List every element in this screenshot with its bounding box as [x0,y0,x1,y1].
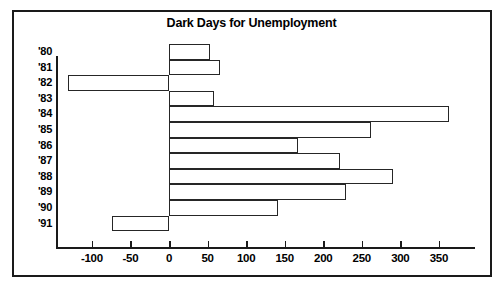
chart-title: Dark Days for Unemployment [0,16,503,30]
y-axis-tick-label: '91 [22,217,52,229]
y-axis-tick-label: '80 [22,45,52,57]
y-axis-tick-label: '85 [22,123,52,135]
x-axis-line [56,247,475,249]
bar [169,106,449,122]
bar-chart: Dark Days for Unemployment '80'81'82'83'… [0,0,503,286]
x-axis-tick [285,241,287,249]
y-axis-tick-label: '88 [22,170,52,182]
bar [169,138,298,154]
x-axis-tick [400,241,402,249]
y-axis-tick-label: '84 [22,107,52,119]
x-axis-tick [246,241,248,249]
x-axis-tick [362,241,364,249]
x-axis-tick [92,241,94,249]
bar [169,44,210,60]
x-axis-tick [169,241,171,249]
x-axis-tick [208,241,210,249]
bar [112,216,169,232]
bar [169,200,278,216]
x-axis-tick-label: 350 [414,252,464,264]
bar [169,91,214,107]
bar [169,169,393,185]
y-axis-tick-label: '89 [22,185,52,197]
x-axis-tick [439,241,441,249]
y-axis-tick-label: '86 [22,139,52,151]
bar [169,60,220,76]
x-axis-tick [130,241,132,249]
y-axis-line [56,56,58,249]
y-axis-tick-label: '90 [22,201,52,213]
x-axis-tick [323,241,325,249]
bar [169,153,340,169]
y-axis-tick-label: '82 [22,76,52,88]
bar [68,75,169,91]
y-axis-tick-label: '87 [22,154,52,166]
bar [169,122,371,138]
y-axis-tick-label: '83 [22,92,52,104]
y-axis-tick-label: '81 [22,61,52,73]
bar [169,184,346,200]
